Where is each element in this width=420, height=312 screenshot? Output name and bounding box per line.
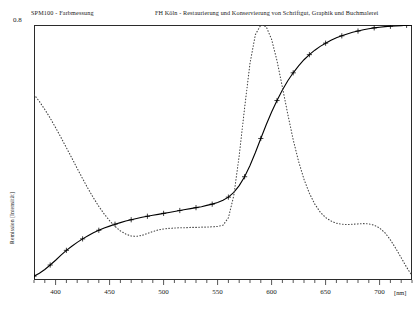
series-line-0 — [34, 25, 412, 276]
data-point-marker — [34, 274, 37, 279]
x-tick-label: 400 — [50, 288, 61, 296]
x-tick-label: 500 — [158, 288, 169, 296]
data-point-marker — [210, 202, 215, 207]
data-point-marker — [339, 33, 344, 38]
x-tick-label: 450 — [104, 288, 115, 296]
y-axis-title: Remission [Intensität] — [9, 170, 15, 266]
data-point-marker — [129, 217, 134, 222]
data-point-marker — [372, 25, 377, 30]
data-point-marker — [388, 25, 393, 29]
chart-title-right: FH Köln - Restaurierung und Konservierun… — [155, 9, 378, 16]
series-line-1 — [34, 25, 412, 276]
data-point-marker — [258, 136, 263, 141]
x-tick-label: 600 — [266, 288, 277, 296]
chart-plot-area — [34, 25, 412, 280]
chart-title-left: SPM100 - Farbmessung — [31, 9, 94, 16]
data-point-marker — [404, 25, 409, 28]
data-point-marker — [177, 208, 182, 213]
x-axis-unit-label: [nm] — [394, 289, 406, 296]
x-tick-label: 700 — [374, 288, 385, 296]
data-point-marker — [96, 228, 101, 233]
data-point-marker — [242, 174, 247, 179]
data-point-marker — [274, 98, 279, 103]
data-point-marker — [323, 41, 328, 46]
y-axis-max-label: 0.8 — [13, 16, 22, 24]
data-point-marker — [145, 214, 150, 219]
data-point-marker — [193, 205, 198, 210]
x-tick-label: 650 — [320, 288, 331, 296]
data-point-marker — [161, 211, 166, 216]
x-tick-label: 550 — [212, 288, 223, 296]
data-point-marker — [112, 222, 117, 227]
chart-screenshot: SPM100 - Farbmessung FH Köln - Restaurie… — [0, 0, 420, 312]
data-point-marker — [355, 28, 360, 33]
